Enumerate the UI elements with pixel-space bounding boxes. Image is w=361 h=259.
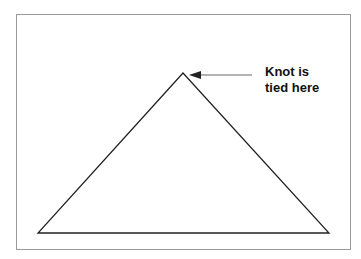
triangle-shape xyxy=(38,73,329,233)
annotation-line-2: tied here xyxy=(265,80,319,96)
annotation-line-1: Knot is xyxy=(265,64,319,80)
triangle-diagram xyxy=(0,0,361,259)
knot-annotation: Knot is tied here xyxy=(265,64,319,96)
arrow-head-icon xyxy=(189,71,201,79)
